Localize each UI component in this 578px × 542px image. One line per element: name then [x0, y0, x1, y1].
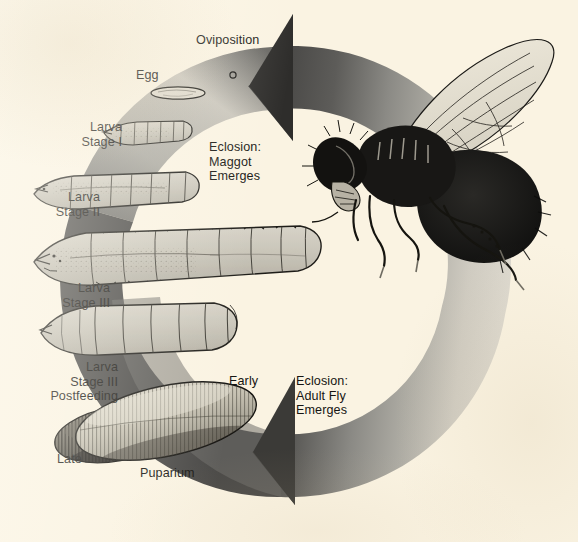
- label-larva-3-post: Larva Stage III Postfeeding: [0, 360, 118, 404]
- fly-thorax: [357, 125, 455, 207]
- label-eclosion-maggot: Eclosion: Maggot Emerges: [209, 140, 261, 184]
- label-larva-1: Larva Stage I: [0, 120, 122, 149]
- label-larva-3: Larva Stage III: [0, 281, 110, 310]
- label-early: Early: [229, 374, 258, 389]
- label-egg: Egg: [136, 68, 159, 83]
- label-eclosion-adult: Eclosion: Adult Fly Emerges: [296, 374, 348, 418]
- label-oviposition: Oviposition: [196, 33, 259, 48]
- label-larva-2: Larva Stage II: [0, 190, 100, 219]
- label-late: Late: [57, 452, 82, 467]
- life-cycle-artboard: [0, 0, 578, 542]
- life-cycle-figure: OvipositionEggEclosion: Maggot EmergesLa…: [0, 0, 578, 542]
- label-puparium: Puparium: [140, 466, 195, 481]
- egg-specimen: [151, 87, 205, 99]
